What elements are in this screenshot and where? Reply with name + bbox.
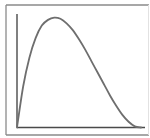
- distribution-figure: [0, 0, 150, 138]
- figure-background: [0, 0, 150, 138]
